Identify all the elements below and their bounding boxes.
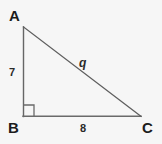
right-angle-marker-icon: [24, 105, 35, 116]
right-triangle-figure: A B C 7 8 q: [0, 0, 162, 144]
side-length-label-vertical-leg: 7: [9, 67, 15, 78]
vertex-label-a: A: [9, 8, 20, 23]
triangle-side-hypotenuse: [24, 27, 142, 116]
vertex-label-c: C: [142, 120, 153, 135]
side-length-label-hypotenuse: q: [79, 57, 86, 69]
side-length-label-horizontal-leg: 8: [80, 123, 86, 134]
vertex-label-b: B: [8, 120, 19, 135]
